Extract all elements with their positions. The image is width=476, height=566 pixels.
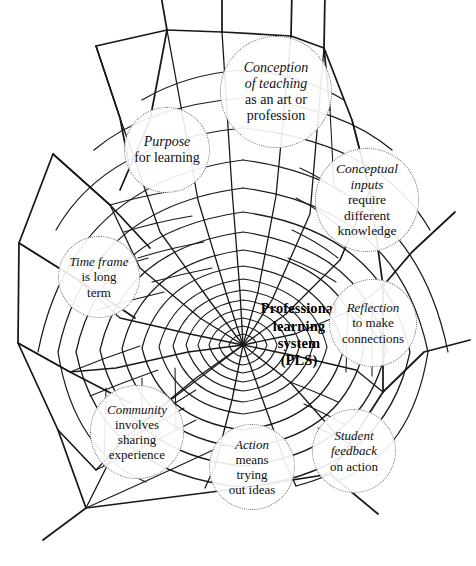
center-label-line-4: (PLS): [281, 352, 318, 369]
purpose-for-learning-line-1: Purpose: [144, 134, 191, 150]
conception-of-teaching-line-4: profession: [247, 108, 305, 124]
purpose-for-learning[interactable]: Purposefor learning: [124, 107, 210, 193]
student-feedback-on-action-line-1: Student: [335, 428, 374, 443]
conceptual-inputs-line-3: require: [348, 192, 386, 208]
action-trying-out-ideas-line-2: means: [235, 452, 268, 467]
action-trying-out-ideas-line-1: Action: [235, 437, 269, 452]
community-sharing-experience-line-3: sharing: [118, 432, 156, 447]
conception-of-teaching[interactable]: Conceptionof teachingas an art orprofess…: [220, 36, 332, 148]
conceptual-inputs[interactable]: Conceptualinputsrequiredifferentknowledg…: [315, 148, 419, 252]
conceptual-inputs-line-4: different: [344, 208, 390, 224]
conception-of-teaching-line-2: of teaching: [245, 76, 308, 92]
time-frame-line-1: Time frame: [70, 254, 129, 269]
reflection-to-make-connections-line-1: Reflection: [347, 300, 400, 315]
time-frame-line-3: term: [87, 285, 111, 300]
reflection-to-make-connections[interactable]: Reflectionto makeconnections: [329, 279, 417, 367]
reflection-to-make-connections-line-3: connections: [342, 331, 404, 346]
center-label-line-2: learning: [273, 318, 325, 335]
purpose-for-learning-line-2: for learning: [134, 150, 200, 166]
conceptual-inputs-line-1: Conceptual: [336, 161, 398, 177]
center-label-line-1: Professional: [261, 300, 338, 317]
conception-of-teaching-line-3: as an art or: [245, 92, 307, 108]
center-label-line-3: system: [278, 335, 320, 352]
community-sharing-experience-line-4: experience: [109, 447, 165, 462]
student-feedback-on-action-line-3: on action: [330, 459, 378, 474]
conception-of-teaching-line-1: Conception: [244, 60, 309, 76]
community-sharing-experience-line-1: Community: [107, 402, 167, 417]
figure-canvas: Professionallearningsystem(PLS) Concepti…: [0, 0, 476, 566]
time-frame-line-2: is long: [81, 269, 116, 284]
reflection-to-make-connections-line-2: to make: [352, 315, 394, 330]
student-feedback-on-action[interactable]: Studentfeedbackon action: [312, 409, 396, 493]
conceptual-inputs-line-5: knowledge: [337, 223, 396, 239]
action-trying-out-ideas-line-4: out ideas: [229, 482, 276, 497]
community-sharing-experience-line-2: involves: [115, 417, 159, 432]
time-frame[interactable]: Time frameis longterm: [58, 236, 140, 318]
action-trying-out-ideas[interactable]: Actionmeanstryingout ideas: [209, 424, 295, 510]
conceptual-inputs-line-2: inputs: [350, 177, 383, 193]
community-sharing-experience[interactable]: Communityinvolvessharingexperience: [90, 385, 184, 479]
action-trying-out-ideas-line-3: trying: [236, 467, 267, 482]
student-feedback-on-action-line-2: feedback: [331, 443, 377, 458]
